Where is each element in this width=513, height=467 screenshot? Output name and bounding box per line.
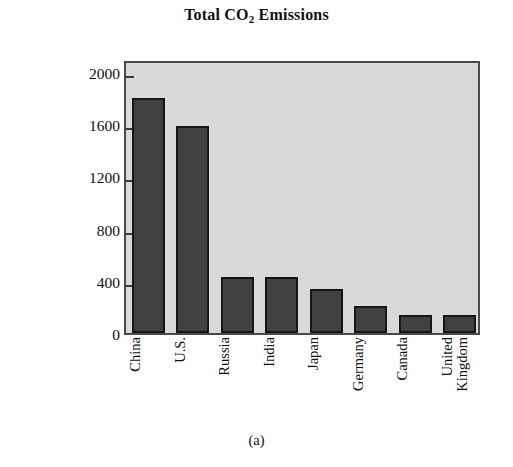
figure-caption: (a) bbox=[0, 432, 513, 449]
y-axis-tick-label: 1600 bbox=[62, 118, 120, 134]
bar-united-kingdom bbox=[443, 315, 476, 333]
x-axis-tick-label-line: Japan bbox=[306, 337, 321, 370]
bar-china bbox=[132, 98, 165, 333]
y-axis-tick-label: 2000 bbox=[62, 66, 120, 82]
bar-series bbox=[126, 63, 478, 333]
plot-area bbox=[124, 61, 480, 335]
y-axis-tick-labels: 0400800120016002000 bbox=[62, 0, 120, 467]
chart-title-pre: Total CO bbox=[184, 6, 249, 23]
bar-canada bbox=[399, 315, 432, 333]
x-axis-tick-label-line: Russia bbox=[217, 337, 232, 376]
bar-u-s bbox=[176, 126, 209, 333]
chart-title-post: Emissions bbox=[254, 6, 328, 23]
x-axis-tick-label-line: U.S. bbox=[173, 337, 188, 363]
x-axis-tick-label-line: Germany bbox=[351, 337, 366, 391]
y-axis-tick-label: 1200 bbox=[62, 171, 120, 187]
x-axis-tick-labels: ChinaU.S.RussiaIndiaJapanGermanyCanadaUn… bbox=[124, 337, 480, 437]
x-axis-tick-label-line: China bbox=[128, 337, 143, 372]
x-axis-tick-label-line: India bbox=[262, 337, 277, 367]
bar-russia bbox=[221, 277, 254, 333]
bar-india bbox=[265, 277, 298, 333]
x-axis-tick-label-line: United bbox=[440, 337, 455, 376]
chart-title-subscript: 2 bbox=[249, 13, 255, 25]
y-axis-tick-label: 0 bbox=[62, 327, 120, 343]
bar-japan bbox=[310, 289, 343, 333]
figure-co2-emissions: Total CO2 Emissions CO2 emissions (milli… bbox=[0, 0, 513, 467]
y-axis-tick-label: 400 bbox=[62, 275, 120, 291]
y-axis-tick-label: 800 bbox=[62, 223, 120, 239]
bar-germany bbox=[354, 306, 387, 333]
x-axis-tick-label-line: Canada bbox=[395, 337, 410, 380]
x-axis-tick-label-line: Kingdom bbox=[455, 337, 470, 392]
